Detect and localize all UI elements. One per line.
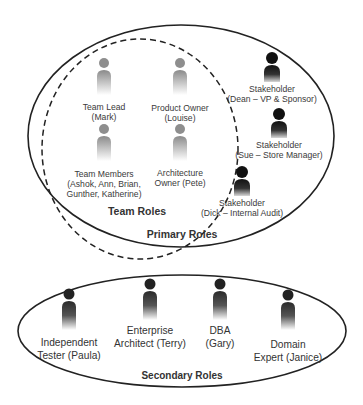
role-title: Domain bbox=[254, 338, 323, 351]
role-title: Stakeholder bbox=[201, 198, 283, 208]
role-title: Product Owner bbox=[151, 103, 208, 113]
stakeholder-sue-label: Stakeholder (Sue – Store Manager) bbox=[235, 140, 322, 160]
person-icon bbox=[97, 58, 111, 95]
architecture-owner-label: Architecture Owner (Pete) bbox=[154, 168, 205, 188]
stakeholder-dick-label: Stakeholder (Dick – Internal Audit) bbox=[201, 198, 283, 218]
person-icon bbox=[264, 52, 280, 82]
enterprise-architect-label: Enterprise Architect (Terry) bbox=[114, 324, 186, 350]
role-title: Architecture bbox=[154, 168, 205, 178]
person-icon bbox=[143, 279, 157, 321]
primary-roles-title: Primary Roles bbox=[147, 228, 218, 240]
role-person: (Gary) bbox=[206, 337, 235, 350]
role-title: DBA bbox=[206, 324, 235, 337]
person-icon bbox=[97, 124, 111, 161]
role-title: Enterprise bbox=[114, 324, 186, 337]
domain-expert-label: Domain Expert (Janice) bbox=[254, 338, 323, 364]
role-person: (Sue – Store Manager) bbox=[235, 150, 322, 160]
person-icon bbox=[234, 166, 250, 196]
team-roles-title: Team Roles bbox=[108, 205, 166, 217]
person-icon bbox=[271, 108, 287, 138]
role-person: (Dean – VP & Sponsor) bbox=[227, 94, 317, 104]
role-person: (Ashok, Ann, Brian, bbox=[66, 179, 141, 189]
independent-tester-label: Independent Tester (Paula) bbox=[37, 336, 100, 362]
product-owner-label: Product Owner (Louise) bbox=[151, 103, 208, 123]
role-title: Team Members bbox=[66, 169, 141, 179]
team-lead-label: Team Lead (Mark) bbox=[83, 102, 126, 122]
role-title: Stakeholder bbox=[235, 140, 322, 150]
team-members-label: Team Members (Ashok, Ann, Brian, Gunther… bbox=[66, 169, 141, 199]
role-title: Independent bbox=[37, 336, 100, 349]
role-person: Gunther, Katherine) bbox=[66, 189, 141, 199]
role-person: Expert (Janice) bbox=[254, 351, 323, 364]
role-person: (Dick – Internal Audit) bbox=[201, 208, 283, 218]
person-icon bbox=[173, 58, 187, 95]
secondary-roles-title: Secondary Roles bbox=[141, 370, 222, 381]
role-person: Architect (Terry) bbox=[114, 337, 186, 350]
dba-label: DBA (Gary) bbox=[206, 324, 235, 350]
person-icon bbox=[281, 290, 295, 331]
team-roles-boundary bbox=[42, 39, 238, 259]
role-person: Tester (Paula) bbox=[37, 349, 100, 362]
role-title: Stakeholder bbox=[227, 84, 317, 94]
stakeholder-dean-label: Stakeholder (Dean – VP & Sponsor) bbox=[227, 84, 317, 104]
person-icon bbox=[173, 124, 187, 161]
role-person: Owner (Pete) bbox=[154, 178, 205, 188]
person-icon bbox=[213, 279, 227, 321]
role-title: Team Lead bbox=[83, 102, 126, 112]
person-icon bbox=[62, 289, 76, 331]
role-person: (Louise) bbox=[151, 113, 208, 123]
role-person: (Mark) bbox=[83, 112, 126, 122]
